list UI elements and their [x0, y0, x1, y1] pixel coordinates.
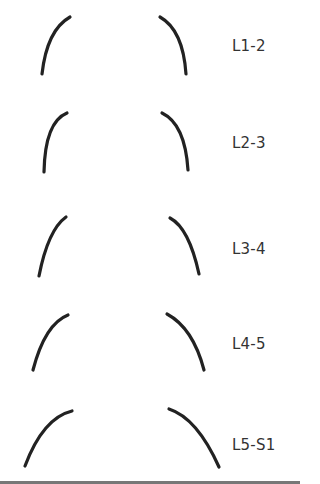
- right-arc-l4-5: [167, 314, 204, 370]
- level-label-l4-5: L4-5: [232, 335, 266, 353]
- left-arc-l2-3: [44, 113, 67, 172]
- left-arc-l3-4: [39, 217, 66, 276]
- level-label-l1-2: L1-2: [232, 37, 266, 55]
- level-label-l5-s1: L5-S1: [232, 436, 275, 454]
- left-arc-l1-2: [42, 17, 70, 74]
- level-label-l2-3: L2-3: [232, 134, 266, 152]
- left-arc-l5-s1: [25, 411, 72, 466]
- right-arc-l5-s1: [169, 409, 219, 467]
- right-arc-l3-4: [170, 218, 199, 274]
- right-arc-l1-2: [160, 17, 186, 74]
- right-arc-l2-3: [162, 113, 188, 170]
- level-label-l3-4: L3-4: [232, 240, 266, 258]
- left-arc-l4-5: [33, 315, 68, 370]
